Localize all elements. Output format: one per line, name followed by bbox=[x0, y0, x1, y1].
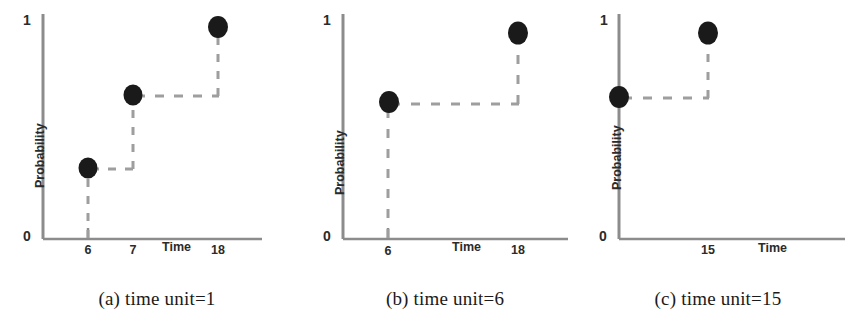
y-axis-bottom-label-c: 0 bbox=[599, 228, 607, 244]
plot-area-a: 1 0 Probability 6 7 18 Time bbox=[0, 0, 282, 285]
plot-area-b: 1 0 Probability 6 18 Time bbox=[300, 0, 582, 285]
data-point-b-2 bbox=[508, 22, 528, 45]
data-point-c-1 bbox=[609, 86, 629, 108]
panel-caption-b: (b) time unit=6 bbox=[304, 288, 586, 310]
y-axis-title-a: Probability bbox=[33, 123, 47, 188]
figure-ecdf-time-units: 1 0 Probability 6 7 18 Time (a) time uni… bbox=[0, 0, 845, 332]
y-axis-top-label-a: 1 bbox=[23, 12, 31, 28]
y-axis-title-b: Probability bbox=[333, 130, 347, 195]
y-axis-bottom-label-b: 0 bbox=[323, 228, 331, 244]
panel-caption-a: (a) time unit=1 bbox=[16, 288, 298, 310]
y-axis-top-label-b: 1 bbox=[323, 12, 331, 28]
y-axis-title-c: Probability bbox=[610, 125, 624, 190]
y-axis-bottom-label-a: 0 bbox=[23, 228, 31, 244]
panel-caption-c: (c) time unit=15 bbox=[577, 288, 845, 310]
panel-c: 1 0 Probability 15 Time (c) time unit=15 bbox=[577, 0, 845, 332]
data-point-a-2 bbox=[124, 85, 143, 106]
y-axis-top-label-c: 1 bbox=[600, 12, 608, 28]
x-axis-title-b: Time bbox=[452, 240, 481, 254]
x-tick-label-a-3: 18 bbox=[206, 243, 230, 257]
x-tick-label-c-1: 15 bbox=[696, 243, 720, 257]
x-tick-label-b-2: 18 bbox=[506, 243, 530, 257]
x-tick-label-b-1: 6 bbox=[378, 244, 398, 258]
panel-a: 1 0 Probability 6 7 18 Time (a) time uni… bbox=[0, 0, 282, 332]
x-axis-title-a: Time bbox=[162, 240, 191, 254]
data-point-a-3 bbox=[208, 16, 228, 38]
data-point-c-2 bbox=[698, 22, 718, 45]
x-tick-label-a-2: 7 bbox=[123, 243, 143, 257]
x-axis-title-c: Time bbox=[758, 241, 787, 255]
panel-b: 1 0 Probability 6 18 Time (b) time unit=… bbox=[300, 0, 582, 332]
x-tick-label-a-1: 6 bbox=[78, 243, 98, 257]
data-point-b-1 bbox=[379, 91, 399, 113]
data-point-a-1 bbox=[79, 158, 98, 179]
plot-area-c: 1 0 Probability 15 Time bbox=[577, 0, 845, 285]
